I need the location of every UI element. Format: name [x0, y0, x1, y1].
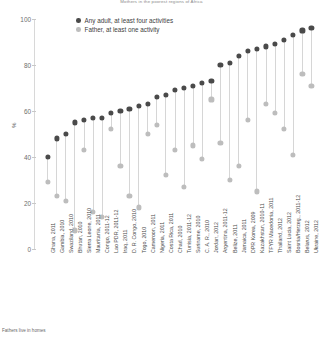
x-axis-tick-label: Iraq, 2011: [122, 230, 128, 253]
data-point-father[interactable]: [263, 102, 268, 107]
data-point-father[interactable]: [145, 131, 150, 136]
connector-stem: [65, 134, 66, 201]
connector-stem: [247, 51, 248, 120]
data-point-any-adult[interactable]: [154, 95, 159, 100]
data-point-father[interactable]: [245, 118, 250, 123]
data-point-father[interactable]: [54, 194, 59, 199]
x-axis-tick-label: Kazakhstan, 2010-11: [259, 203, 265, 253]
data-point-father[interactable]: [191, 143, 196, 148]
data-point-father[interactable]: [300, 72, 305, 77]
data-point-father[interactable]: [227, 177, 232, 182]
y-axis-label: %: [10, 122, 17, 128]
data-point-any-adult[interactable]: [45, 154, 50, 159]
x-axis-tick-label: Thailand, 2012: [277, 218, 283, 253]
data-point-father[interactable]: [118, 164, 123, 169]
data-point-any-adult[interactable]: [200, 81, 205, 86]
data-point-father[interactable]: [254, 189, 259, 194]
x-axis-tick-label: Saint Lucia, 2012: [286, 212, 292, 253]
data-point-father[interactable]: [127, 194, 132, 199]
data-point-any-adult[interactable]: [72, 120, 77, 125]
y-axis-tick: [32, 65, 36, 66]
connector-stem: [156, 97, 157, 125]
data-point-any-adult[interactable]: [191, 83, 196, 88]
data-point-father[interactable]: [63, 198, 68, 203]
connector-stem: [47, 157, 48, 182]
data-point-any-adult[interactable]: [263, 44, 268, 49]
data-point-father[interactable]: [163, 173, 168, 178]
connector-stem: [275, 44, 276, 113]
data-point-any-adult[interactable]: [172, 88, 177, 93]
data-point-father[interactable]: [181, 184, 186, 189]
data-point-father[interactable]: [272, 111, 277, 116]
x-axis-tick-label: Togo, 2010: [141, 227, 147, 253]
data-point-any-adult[interactable]: [227, 60, 232, 65]
data-point-any-adult[interactable]: [136, 104, 141, 109]
x-axis-tick-label: Ukraine, 2012: [313, 220, 319, 253]
connector-stem: [184, 88, 185, 187]
data-point-any-adult[interactable]: [109, 111, 114, 116]
data-point-any-adult[interactable]: [272, 42, 277, 47]
connector-stem: [266, 47, 267, 105]
data-point-any-adult[interactable]: [63, 131, 68, 136]
connector-stem: [256, 49, 257, 192]
data-point-father[interactable]: [291, 152, 296, 157]
data-point-any-adult[interactable]: [163, 92, 168, 97]
x-axis-tick-label: Jordan, 2012: [213, 222, 219, 253]
data-point-any-adult[interactable]: [100, 115, 105, 120]
connector-stem: [202, 83, 203, 159]
data-point-any-adult[interactable]: [254, 46, 259, 51]
connector-stem: [56, 139, 57, 197]
y-axis-tick-label: 100: [20, 16, 31, 23]
data-point-any-adult[interactable]: [127, 106, 132, 111]
data-point-any-adult[interactable]: [54, 136, 59, 141]
data-point-father[interactable]: [81, 148, 86, 153]
y-axis-tick: [32, 111, 36, 112]
data-point-father[interactable]: [200, 157, 205, 162]
connector-stem: [193, 86, 194, 146]
x-axis-tick-label: TFYR Macedonia, 2011: [268, 197, 274, 253]
y-axis-tick: [32, 157, 36, 158]
data-point-any-adult[interactable]: [245, 49, 250, 54]
data-point-any-adult[interactable]: [236, 53, 241, 58]
x-axis-tick-label: Bhutan, 2010: [77, 221, 83, 253]
connector-stem: [102, 118, 103, 217]
data-point-any-adult[interactable]: [282, 37, 287, 42]
data-point-any-adult[interactable]: [181, 85, 186, 90]
data-point-father[interactable]: [154, 122, 159, 127]
data-point-any-adult[interactable]: [81, 118, 86, 123]
data-point-father[interactable]: [309, 83, 314, 88]
x-axis-tick-label: D. R. Congo, 2010: [131, 209, 137, 253]
x-axis-tick-label: Tunisia, 2011-12: [186, 214, 192, 253]
y-axis-tick-label: 80: [24, 62, 31, 69]
x-axis-tick-label: Chad, 2010: [177, 226, 183, 253]
data-point-father[interactable]: [109, 127, 114, 132]
connector-stem: [147, 104, 148, 134]
data-point-any-adult[interactable]: [300, 28, 305, 33]
data-point-any-adult[interactable]: [291, 33, 296, 38]
connector-stem: [129, 109, 130, 196]
connector-stem: [284, 40, 285, 130]
chart-footnote: Fathers live in homes: [2, 328, 46, 333]
data-point-any-adult[interactable]: [209, 79, 214, 84]
data-point-any-adult[interactable]: [309, 26, 314, 31]
data-point-any-adult[interactable]: [90, 115, 95, 120]
data-point-father[interactable]: [45, 180, 50, 185]
connector-stem: [238, 56, 239, 166]
x-axis-tick-label: DPR Korea, 2009: [250, 211, 256, 253]
data-point-any-adult[interactable]: [145, 102, 150, 107]
data-point-father[interactable]: [218, 141, 223, 146]
data-point-father[interactable]: [282, 127, 287, 132]
data-point-any-adult[interactable]: [218, 62, 223, 67]
x-axis-tick-label: Bosnia/Herzeg., 2011-12: [295, 195, 301, 253]
y-axis-line: [34, 19, 35, 249]
data-point-father[interactable]: [172, 148, 177, 153]
connector-stem: [165, 95, 166, 176]
x-axis-tick-label: Nigeria, 2011: [159, 222, 165, 253]
x-axis-tick-label: Belize, 2011: [232, 224, 238, 253]
chart-root: Mothers in the poorest regions of Africa…: [0, 0, 323, 338]
x-axis-tick-label: Cameroon, 2011: [150, 214, 156, 253]
data-point-father[interactable]: [209, 97, 214, 102]
data-point-any-adult[interactable]: [118, 108, 123, 113]
data-point-father[interactable]: [236, 164, 241, 169]
y-axis-tick: [32, 249, 36, 250]
